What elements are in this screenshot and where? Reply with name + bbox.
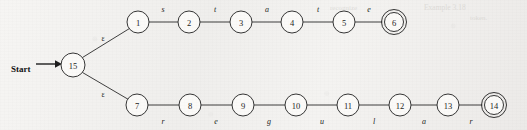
state-label-11: 11: [344, 101, 352, 111]
state-label-10: 10: [292, 101, 301, 111]
state-node-15[interactable]: 15: [61, 53, 85, 77]
edge-label-8-9: e: [214, 117, 218, 126]
state-label-7: 7: [135, 101, 139, 111]
nfa-diagram: Example 3.18 token. recognize Start ε ε …: [0, 0, 527, 130]
state-node-4[interactable]: 4: [281, 11, 303, 33]
state-node-1[interactable]: 1: [127, 11, 149, 33]
bleed-text: token.: [470, 14, 488, 22]
state-label-5: 5: [342, 18, 346, 28]
state-node-3[interactable]: 3: [230, 11, 252, 33]
edge-label-epsilon-bottom: ε: [101, 90, 104, 99]
state-label-8: 8: [188, 101, 192, 111]
state-node-12[interactable]: 12: [389, 94, 411, 116]
state-label-13: 13: [444, 101, 453, 111]
bleed-text: Example 3.18: [424, 3, 466, 12]
start-label: Start: [11, 64, 31, 74]
state-label-12: 12: [396, 101, 405, 111]
bottom-branch-edge-labels: r e g u l a r: [161, 117, 473, 126]
edge-label-3-4: a: [265, 5, 269, 14]
edge-label-11-12: l: [373, 117, 376, 126]
state-node-13[interactable]: 13: [437, 94, 459, 116]
edge-15-to-7: [83, 73, 129, 100]
edge-15-to-1: [83, 29, 130, 58]
state-node-9[interactable]: 9: [232, 94, 254, 116]
state-node-14-accepting[interactable]: 14: [482, 93, 507, 118]
state-node-2[interactable]: 2: [178, 11, 200, 33]
state-node-11[interactable]: 11: [337, 94, 359, 116]
state-node-7[interactable]: 7: [126, 94, 148, 116]
state-node-6-accepting[interactable]: 6: [382, 10, 407, 35]
edge-label-9-10: g: [267, 117, 271, 126]
edge-label-10-11: u: [320, 117, 324, 126]
edge-label-epsilon-top: ε: [101, 34, 104, 43]
diagram-canvas: Example 3.18 token. recognize Start ε ε …: [0, 0, 527, 130]
state-node-10[interactable]: 10: [285, 94, 307, 116]
state-label-6: 6: [392, 18, 396, 28]
state-label-14: 14: [490, 101, 499, 111]
edge-label-7-8: r: [161, 117, 165, 126]
state-label-9: 9: [241, 101, 245, 111]
state-node-8[interactable]: 8: [179, 94, 201, 116]
start-arrow: Start: [11, 60, 62, 74]
state-label-1: 1: [136, 18, 140, 28]
edge-label-5-6: e: [367, 5, 371, 14]
edge-label-4-5: t: [317, 5, 320, 14]
edge-label-12-13: a: [422, 117, 426, 126]
state-label-2: 2: [187, 18, 191, 28]
state-label-15: 15: [69, 61, 78, 71]
state-label-3: 3: [239, 18, 243, 28]
edge-label-2-3: t: [214, 5, 217, 14]
epsilon-edges: ε ε: [83, 29, 130, 100]
state-node-5[interactable]: 5: [333, 11, 355, 33]
edge-label-13-14: r: [469, 117, 473, 126]
edge-label-1-2: s: [161, 5, 164, 14]
